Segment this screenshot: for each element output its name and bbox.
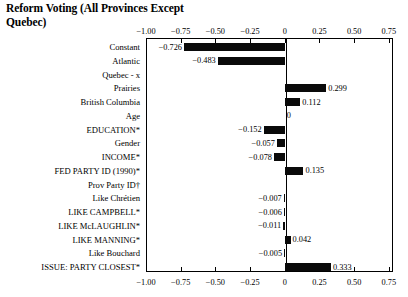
category-label: Like Bouchard [0, 248, 143, 258]
bar [284, 208, 285, 216]
category-label: LIKE CAMPBELL* [0, 207, 143, 217]
category-label: ISSUE: PARTY CLOSEST* [0, 262, 143, 272]
bar-value-label: −0.726 [146, 43, 184, 52]
category-label: INCOME* [0, 152, 143, 162]
bar-value-label: 0.299 [328, 84, 347, 93]
bar [284, 249, 285, 257]
category-label: Age [0, 111, 143, 121]
bar [283, 222, 285, 230]
axis-tick-label: 0.75 [369, 278, 408, 287]
category-label: LIKE MANNING* [0, 235, 143, 245]
category-label: Atlantic [0, 56, 143, 66]
bar [274, 153, 285, 161]
bar [285, 236, 291, 244]
bar-value-label: −0.005 [146, 249, 284, 258]
bar-value-label: 0.135 [305, 166, 324, 175]
category-label: FED PARTY ID (1990)* [0, 166, 143, 176]
bar-value-label: 0.042 [293, 235, 312, 244]
bar-value-label: −0.483 [146, 56, 218, 65]
axis-bottom: −1.00−0.75−0.50−0.2500.250.500.75 [146, 272, 394, 273]
bar [285, 98, 301, 106]
bar-value-label: −0.011 [146, 221, 283, 230]
bar [277, 139, 285, 147]
bar [264, 126, 285, 134]
category-label: LIKE McLAUGHLIN* [0, 221, 143, 231]
bar-value-label: −0.057 [146, 139, 277, 148]
bar-value-label: 0.112 [302, 98, 320, 107]
category-label: Constant [0, 42, 143, 52]
bar [285, 263, 331, 271]
bar-value-label: −0.152 [146, 125, 264, 134]
bar-value-label: −0.006 [146, 208, 284, 217]
bar [218, 57, 285, 65]
category-label: Prov Party ID† [0, 180, 143, 190]
bars-layer: −0.726−0.4830.2990.1120−0.152−0.057−0.07… [146, 38, 393, 272]
category-label: British Columbia [0, 97, 143, 107]
bar-value-label: 0 [287, 111, 291, 120]
bar-value-label: −0.078 [146, 153, 274, 162]
page-title: Reform Voting (All Provinces Except Queb… [6, 2, 216, 29]
category-label: EDUCATION* [0, 125, 143, 135]
bar [284, 194, 285, 202]
axis-tick-label: 0.75 [369, 27, 408, 36]
category-label: Like Chrétien [0, 193, 143, 203]
bar [184, 43, 285, 51]
category-label: Gender [0, 138, 143, 148]
bar [285, 84, 326, 92]
bar-value-label: 0.333 [333, 263, 352, 272]
category-label: Quebec - x [0, 70, 143, 80]
bar-value-label: −0.007 [146, 194, 284, 203]
category-label: Prairies [0, 83, 143, 93]
bar [285, 167, 304, 175]
